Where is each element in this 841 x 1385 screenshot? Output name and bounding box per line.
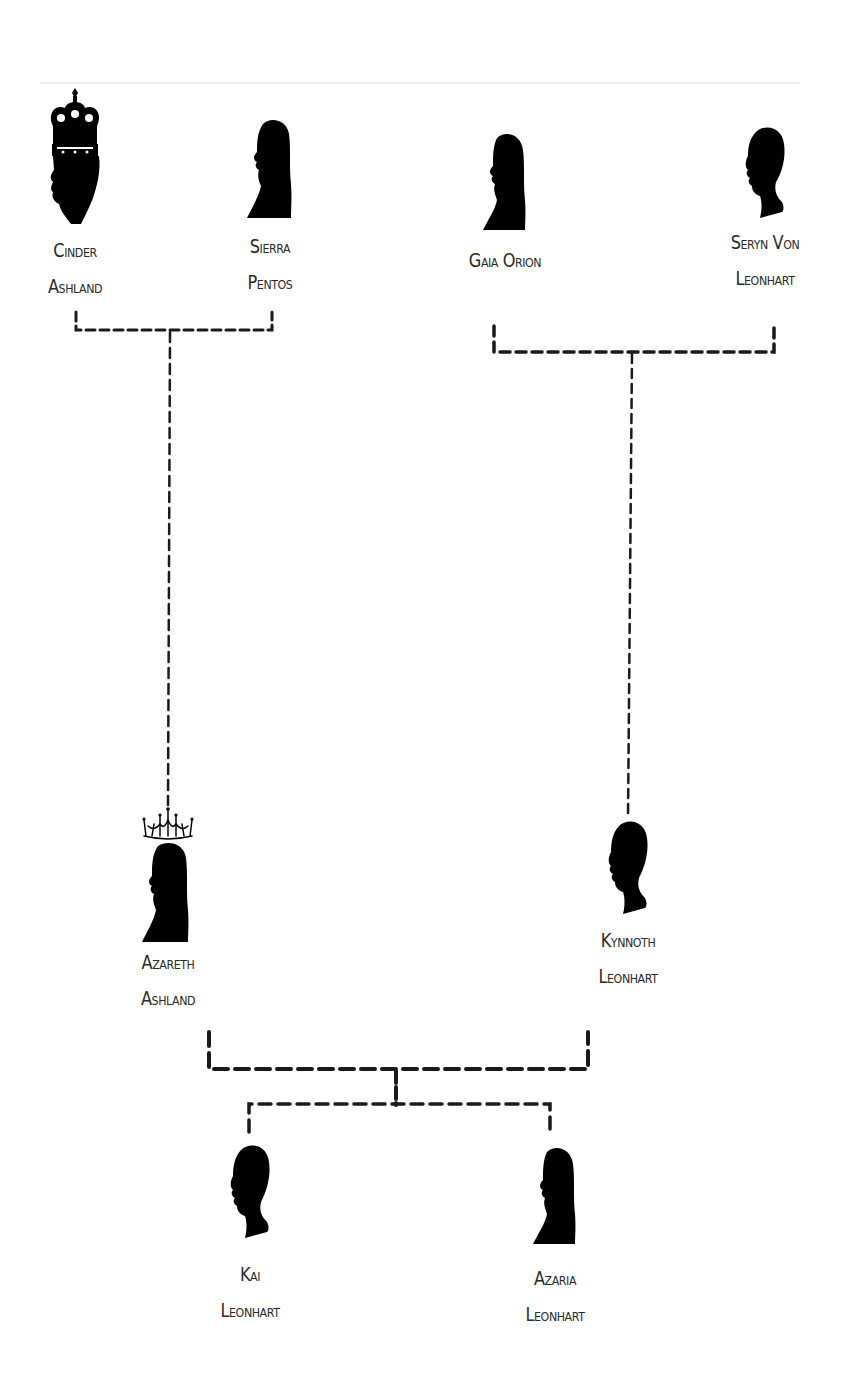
person-name-line2: Leonhart: [199, 1292, 301, 1328]
descent-line-azareth: [168, 332, 170, 805]
union-bracket-gaia-seryn: [494, 326, 774, 352]
children-bracket-kai-azaria: [249, 1104, 550, 1132]
person-name-line2: Leonhart: [577, 958, 679, 994]
person-kynnoth-leonhart: Kynnoth Leonhart: [568, 820, 688, 994]
female-silhouette-icon: [245, 118, 295, 218]
person-name-line2: Leonhart: [504, 1296, 606, 1332]
person-name-line1: Sierra: [223, 228, 317, 264]
person-name-line1: Seryn Von: [710, 224, 821, 260]
person-name-line2: Ashland: [28, 268, 122, 304]
union-bracket-cinder-sierra: [76, 312, 272, 330]
person-cinder-ashland: Cinder Ashland: [20, 86, 130, 304]
person-name-line2: Ashland: [119, 980, 218, 1016]
male-silhouette-icon: [605, 820, 651, 914]
person-azareth-ashland: Azareth Ashland: [110, 806, 226, 1016]
tiara-female-silhouette-icon: [140, 806, 196, 942]
person-seryn-von-leonhart: Seryn Von Leonhart: [700, 126, 830, 296]
person-name-line2: Pentos: [223, 264, 317, 300]
female-silhouette-icon: [481, 132, 529, 230]
person-name-line1: Kynnoth: [577, 922, 679, 958]
male-silhouette-icon: [227, 1144, 273, 1238]
person-name-line1: Azaria: [504, 1260, 606, 1296]
family-tree-diagram: Cinder Ashland Sierra Pentos Gaia Orion …: [0, 0, 841, 1385]
descent-line-kynnoth: [628, 354, 632, 818]
person-name-line2: Leonhart: [710, 260, 821, 296]
person-name-line1: Azareth: [119, 944, 218, 980]
male-silhouette-icon: [742, 126, 788, 218]
person-gaia-orion: Gaia Orion: [445, 132, 565, 278]
person-name-line1: Cinder: [28, 232, 122, 268]
crowned-male-silhouette-icon: [45, 86, 105, 228]
union-bracket-azareth-kynnoth: [209, 1032, 588, 1069]
female-silhouette-icon: [531, 1146, 579, 1244]
person-name-line1: Kai: [199, 1256, 301, 1292]
person-sierra-pentos: Sierra Pentos: [215, 118, 325, 300]
person-kai-leonhart: Kai Leonhart: [190, 1144, 310, 1328]
person-azaria-leonhart: Azaria Leonhart: [495, 1146, 615, 1332]
person-name-line1: Gaia Orion: [454, 242, 556, 278]
